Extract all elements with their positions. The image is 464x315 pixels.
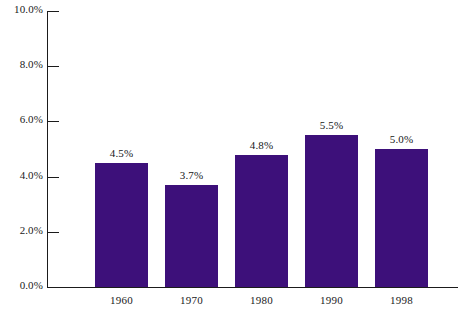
- x-axis-category-label: 1960: [83, 294, 160, 306]
- bar: [305, 135, 358, 287]
- bar-value-label: 3.7%: [155, 169, 228, 181]
- bar-value-label: 4.5%: [85, 147, 158, 159]
- x-axis-category-label: 1998: [363, 294, 440, 306]
- x-axis-category-label: 1980: [223, 294, 300, 306]
- bar: [95, 163, 148, 287]
- bar-value-label: 5.0%: [365, 133, 438, 145]
- bar: [165, 185, 218, 287]
- bar-value-label: 4.8%: [225, 139, 298, 151]
- x-axis-category-label: 1990: [293, 294, 370, 306]
- y-axis-tick: [48, 121, 59, 122]
- y-axis-tick: [48, 11, 59, 12]
- y-axis-tick-label-text: 0.0%: [1, 279, 43, 291]
- y-axis-tick: [48, 177, 59, 178]
- y-axis-line: [47, 11, 48, 288]
- bar: [235, 155, 288, 287]
- x-axis-line: [47, 287, 458, 288]
- y-axis-tick-label-text: 8.0%: [1, 58, 43, 70]
- bar-value-label: 5.5%: [295, 119, 368, 131]
- y-axis-tick-label-text: 6.0%: [1, 113, 43, 125]
- bar: [375, 149, 428, 287]
- x-axis-category-label: 1970: [153, 294, 230, 306]
- y-axis-tick: [48, 232, 59, 233]
- y-axis-tick-label-text: 4.0%: [1, 169, 43, 181]
- y-axis-tick: [48, 287, 59, 288]
- bar-chart: 0.0%2.0%4.0%6.0%8.0%10.0% 4.5%3.7%4.8%5.…: [0, 0, 464, 315]
- y-axis-tick: [48, 66, 59, 67]
- y-axis-tick-label-text: 10.0%: [1, 3, 43, 15]
- y-axis-tick-label-text: 2.0%: [1, 224, 43, 236]
